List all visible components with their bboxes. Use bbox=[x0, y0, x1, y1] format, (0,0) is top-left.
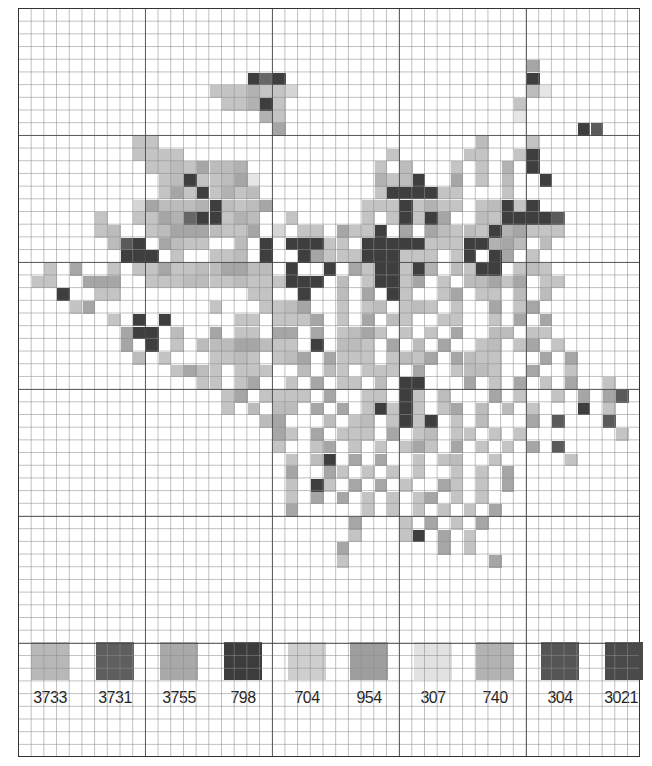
swatch-307 bbox=[414, 642, 452, 680]
swatch-798 bbox=[224, 642, 262, 680]
color-key: 3733 3731 3755 798 704 954 307 740 304 3… bbox=[19, 9, 639, 756]
code-label: 3021 bbox=[591, 689, 651, 707]
code-label: 307 bbox=[403, 689, 463, 707]
swatch-740 bbox=[476, 642, 514, 680]
swatch-3733 bbox=[31, 642, 69, 680]
swatch-3755 bbox=[160, 642, 198, 680]
cross-stitch-chart: 3733 3731 3755 798 704 954 307 740 304 3… bbox=[18, 8, 640, 757]
swatch-3021 bbox=[605, 642, 643, 680]
code-label: 798 bbox=[213, 689, 273, 707]
swatch-704 bbox=[288, 642, 326, 680]
code-label: 3755 bbox=[149, 689, 209, 707]
code-label: 3733 bbox=[20, 689, 80, 707]
code-label: 3731 bbox=[85, 689, 145, 707]
swatch-954 bbox=[350, 642, 388, 680]
swatch-304 bbox=[541, 642, 579, 680]
code-label: 954 bbox=[339, 689, 399, 707]
code-label: 704 bbox=[277, 689, 337, 707]
code-label: 304 bbox=[530, 689, 590, 707]
code-label: 740 bbox=[465, 689, 525, 707]
swatch-3731 bbox=[96, 642, 134, 680]
